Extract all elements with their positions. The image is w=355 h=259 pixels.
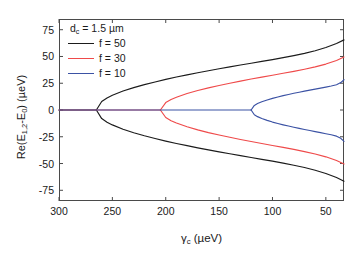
x-tick-label: 250 [104,206,122,217]
legend-label: f = 50 [99,38,126,49]
x-axis-title: γc (µeV) [59,232,344,246]
annotation-dc: dc = 1.5 µm [70,22,124,36]
legend-line-swatch [68,43,94,44]
x-tick-label: 50 [320,206,332,217]
x-tick-label: 200 [157,206,175,217]
y-tick-label: 75 [14,24,54,35]
legend-item[interactable]: f = 10 [68,67,126,80]
legend-line-swatch [68,58,94,59]
y-axis-title-text: Re(E1,2-E0) (µeV) [15,75,27,159]
legend-item[interactable]: f = 30 [68,52,126,65]
figure-container: 7550250-25-50-75 Re(E1,2-E0) (µeV) dc = … [0,0,355,259]
y-axis-title: Re(E1,2-E0) (µeV) [15,47,29,187]
legend-label: f = 30 [99,53,126,64]
legend: f = 50f = 30f = 10 [68,37,126,80]
legend-line-swatch [68,73,94,74]
x-axis-title-text: γc (µeV) [181,232,222,244]
annotation-text: dc = 1.5 µm [70,22,124,34]
x-tick-label: 100 [264,206,282,217]
legend-label: f = 10 [99,68,126,79]
x-tick-label: 150 [210,206,228,217]
x-tick-label: 300 [50,206,68,217]
legend-item[interactable]: f = 50 [68,37,126,50]
x-axis-tick-labels: 30025020015010050 [0,206,355,220]
